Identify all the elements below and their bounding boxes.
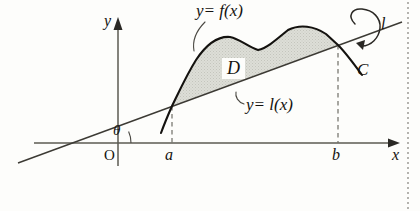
angle-theta-arc xyxy=(129,132,131,144)
region-label: D xyxy=(222,58,245,79)
figure-container: y= f(x) y= l(x) D l C y x O a b θ xyxy=(0,0,420,211)
diagram-canvas xyxy=(0,0,420,211)
curve-name-label: C xyxy=(357,61,368,78)
curve-function-label: y= f(x) xyxy=(196,2,243,19)
right-bound-label: b xyxy=(332,147,340,163)
angle-theta-label: θ xyxy=(113,123,120,138)
leader-lx xyxy=(236,92,244,104)
y-axis-label: y xyxy=(104,13,111,29)
line-function-label: y= l(x) xyxy=(246,96,293,113)
rotation-arrowhead xyxy=(356,40,365,50)
leader-fx xyxy=(193,22,205,51)
y-axis-arrowhead xyxy=(114,17,123,30)
axis-of-revolution-label: l xyxy=(381,16,385,32)
origin-label: O xyxy=(104,148,115,163)
x-axis-label: x xyxy=(392,147,399,163)
left-bound-label: a xyxy=(165,147,173,163)
rotation-arrow xyxy=(351,9,380,46)
